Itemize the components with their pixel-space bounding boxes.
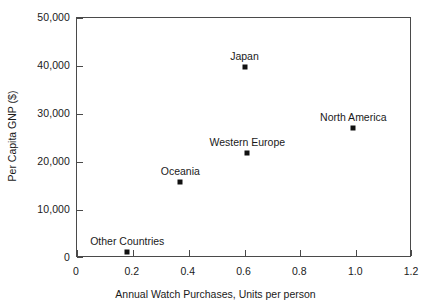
plot-area: Other CountriesOceaniaWestern EuropeJapa… xyxy=(76,17,411,257)
y-axis-title: Per Capita GNP ($) xyxy=(6,36,18,236)
data-point-marker xyxy=(178,179,183,184)
x-tick-label-0-8: 0.8 xyxy=(292,266,307,277)
x-tick-0-6 xyxy=(245,250,246,256)
x-tick-1-2 xyxy=(411,250,412,256)
y-tick-label-20000: 20,000 xyxy=(37,156,70,167)
scatter-chart-figure: Per Capita GNP ($) 50,000 40,000 30,000 … xyxy=(0,0,431,305)
x-tick-label-0-6: 0.6 xyxy=(236,266,251,277)
data-point-marker xyxy=(242,65,247,70)
x-tick-label-1-0: 1.0 xyxy=(348,266,363,277)
x-tick-label-0: 0 xyxy=(73,266,79,277)
y-tick-0 xyxy=(77,257,83,258)
y-tick-40000 xyxy=(77,66,83,67)
y-tick-label-10000: 10,000 xyxy=(37,204,70,215)
y-tick-label-0: 0 xyxy=(64,252,70,263)
data-point-marker xyxy=(125,249,130,254)
data-point-label: Western Europe xyxy=(209,137,285,148)
y-tick-10000 xyxy=(77,210,83,211)
data-point-marker xyxy=(245,150,250,155)
y-tick-20000 xyxy=(77,162,83,163)
x-tick-0-8 xyxy=(300,250,301,256)
x-tick-1-0 xyxy=(356,250,357,256)
data-point-label: Other Countries xyxy=(90,236,164,247)
data-point-label: Oceania xyxy=(161,166,200,177)
data-point-marker xyxy=(351,125,356,130)
x-tick-0 xyxy=(77,250,78,256)
data-point-label: North America xyxy=(320,112,387,123)
x-tick-0-4 xyxy=(189,250,190,256)
x-axis-title: Annual Watch Purchases, Units per person xyxy=(0,288,431,300)
y-tick-30000 xyxy=(77,114,83,115)
data-point-label: Japan xyxy=(230,51,259,62)
x-tick-label-0-4: 0.4 xyxy=(180,266,195,277)
y-tick-label-50000: 50,000 xyxy=(37,12,70,23)
y-tick-label-40000: 40,000 xyxy=(37,60,70,71)
y-tick-50000 xyxy=(77,18,83,19)
x-tick-label-0-2: 0.2 xyxy=(124,266,139,277)
x-tick-0-2 xyxy=(133,250,134,256)
y-tick-label-30000: 30,000 xyxy=(37,108,70,119)
x-tick-label-1-2: 1.2 xyxy=(404,266,419,277)
